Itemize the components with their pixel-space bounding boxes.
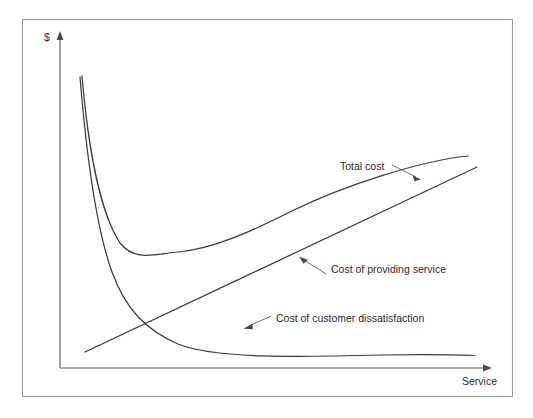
leader-arrowhead-cost-of-providing-service [299, 257, 308, 264]
leader-arrowhead-total-cost [413, 176, 421, 182]
curve-total-cost [82, 76, 468, 255]
label-cost-of-providing-service: Cost of providing service [331, 263, 446, 275]
y-axis-arrowhead [57, 31, 64, 40]
figure-container: $ Service Total cost Cost of providing s… [0, 0, 533, 418]
leader-arrowhead-cost-of-customer-dissatisfaction [244, 323, 253, 329]
x-axis-label: Service [462, 375, 497, 387]
curve-cost-of-providing-service [85, 167, 477, 352]
cost-of-service-chart: $ Service Total cost Cost of providing s… [0, 0, 533, 418]
y-axis-label: $ [44, 31, 50, 43]
x-axis-arrowhead [483, 365, 492, 372]
leader-cost-of-providing-service [304, 260, 326, 274]
label-total-cost: Total cost [340, 160, 384, 172]
label-cost-of-customer-dissatisfaction: Cost of customer dissatisfaction [276, 312, 424, 324]
